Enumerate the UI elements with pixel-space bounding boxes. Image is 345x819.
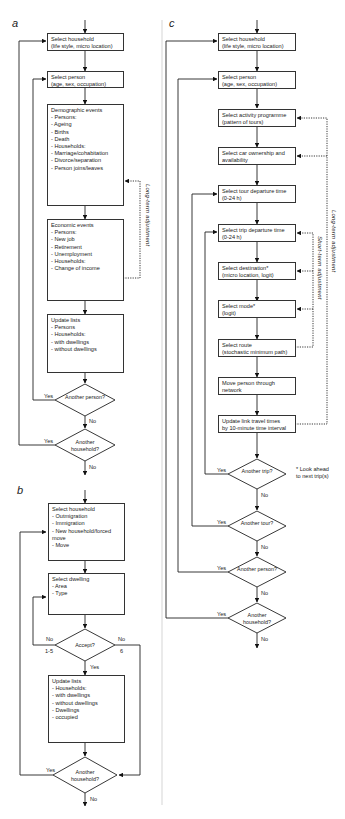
panel-label-b: b xyxy=(17,484,23,496)
a-household-no-label: No xyxy=(89,464,96,470)
a-household-yes-label: Yes xyxy=(44,438,53,444)
b-update-lists-box: Update lists - Households: - with dwelli… xyxy=(48,675,125,743)
a-economic-events-box: Economic events - Persons: - New job - R… xyxy=(47,219,124,301)
a-long-term-adjustment-label: Long-term adjustment xyxy=(145,184,151,246)
a-person-no-label: No xyxy=(89,418,96,424)
c-long-term-adjustment-label: Long-term adjustment xyxy=(331,210,337,272)
b-accept-no-left-range: 1-5 xyxy=(45,648,53,654)
panel-label-a: a xyxy=(12,17,18,29)
c-select-car-ownership-box: Select car ownership and availability xyxy=(218,147,296,165)
a-update-lists-box: Update lists - Persons - Households: - w… xyxy=(47,314,124,373)
c-move-person-box: Move person through network xyxy=(218,377,296,395)
a-another-person-decision: Another person? xyxy=(65,394,105,401)
c-select-person-box: Select person (age, sex, occupation) xyxy=(218,71,296,89)
b-accept-no-right-label: No xyxy=(118,636,125,642)
c-another-household-decision: Another household? xyxy=(235,612,279,625)
c-another-tour-decision: Another tour? xyxy=(237,520,277,527)
c-select-trip-departure-box: Select trip departure time (0-24 h) xyxy=(218,224,296,242)
a-select-household-box: Select household (life style, micro loca… xyxy=(47,33,124,51)
c-another-person-decision: Another person? xyxy=(237,566,277,573)
b-household-no-label: No xyxy=(90,796,97,802)
c-household-no-label: No xyxy=(261,636,268,642)
c-tour-no-label: No xyxy=(261,544,268,550)
c-person-no-label: No xyxy=(261,590,268,596)
c-another-trip-decision: Another trip? xyxy=(237,468,277,475)
c-trip-yes-label: Yes xyxy=(217,467,226,473)
c-trip-no-label: No xyxy=(261,492,268,498)
c-select-tour-departure-box: Select tour departure time (0-24 h) xyxy=(218,185,296,203)
c-select-household-box: Select household (life style, micro loca… xyxy=(218,33,296,51)
b-select-dwelling-box: Select dwelling - Area - Type xyxy=(48,573,125,615)
b-select-household-box: Select household - Outmigration - Immigr… xyxy=(48,503,125,561)
b-accept-no-left-label: No xyxy=(46,636,53,642)
b-accept-decision: Accept? xyxy=(65,642,105,649)
c-household-yes-label: Yes xyxy=(217,611,226,617)
c-footnote: * Look ahead to next trip(s) xyxy=(296,466,329,480)
c-update-link-travel-times-box: Update link travel times by 10-minute ti… xyxy=(218,415,296,433)
b-accept-no-right-value: 6 xyxy=(120,648,123,654)
c-tour-yes-label: Yes xyxy=(217,519,226,525)
a-demographic-events-box: Demographic events - Persons: - Ageing -… xyxy=(47,104,124,206)
b-household-yes-label: Yes xyxy=(46,767,55,773)
c-person-yes-label: Yes xyxy=(217,565,226,571)
a-another-household-decision: Another household? xyxy=(63,439,107,452)
c-short-term-adjustment-label: Short-term adjustment xyxy=(317,236,323,300)
c-select-destination-box: Select destination* (micro location, log… xyxy=(218,262,296,280)
b-another-household-decision: Another household? xyxy=(63,769,107,782)
b-accept-yes-label: Yes xyxy=(90,664,99,670)
c-select-mode-box: Select mode* (logit) xyxy=(218,300,296,318)
a-select-person-box: Select person (age, sex, occupation) xyxy=(47,71,124,88)
c-select-activity-programme-box: Select activity programme (pattern of to… xyxy=(218,109,296,127)
a-person-yes-label: Yes xyxy=(44,393,53,399)
panel-label-c: c xyxy=(169,17,175,29)
c-select-route-box: Select route (stochastic minimum path) xyxy=(218,339,296,357)
